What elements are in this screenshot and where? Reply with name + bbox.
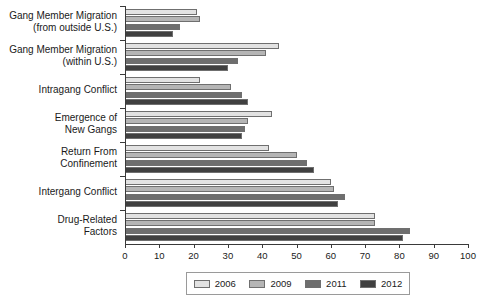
bar [125,167,314,173]
bar [125,118,248,124]
legend-label: 2006 [215,278,236,289]
x-axis-tick-label: 40 [257,250,268,261]
legend-swatch [194,280,210,288]
legend-item[interactable]: 2009 [249,278,291,289]
category-label: Intergang Conflict [39,186,117,198]
x-axis-tick [194,244,195,248]
bar [125,31,173,37]
bar [125,194,345,200]
x-axis-tick [159,244,160,248]
x-axis-tick [228,244,229,248]
x-axis-tick-label: 20 [188,250,199,261]
bar [125,220,375,226]
bar-chart: Gang Member Migration (from outside U.S.… [0,0,485,305]
bar [125,126,245,132]
legend-swatch [305,280,321,288]
bar [125,43,279,49]
bar [125,111,272,117]
category-label: Gang Member Migration (within U.S.) [9,44,117,68]
bar [125,77,200,83]
bar [125,179,331,185]
x-axis-tick-label: 60 [326,250,337,261]
legend-label: 2011 [326,278,346,289]
bar [125,186,334,192]
category-label: Intragang Conflict [39,84,117,96]
x-axis-tick-label: 10 [154,250,165,261]
legend-label: 2009 [270,278,291,289]
category-label: Emergence of New Gangs [55,112,117,136]
x-axis-tick-label: 90 [428,250,439,261]
legend-swatch [360,280,376,288]
x-axis-tick [434,244,435,248]
x-axis-tick-label: 100 [460,250,476,261]
bar [125,58,238,64]
legend-label: 2012 [381,278,402,289]
x-axis-tick [125,244,126,248]
legend-item[interactable]: 2006 [194,278,236,289]
x-axis-tick [262,244,263,248]
category-label: Drug-Related Factors [58,214,117,238]
chart-legend: 2006200920112012 [186,272,410,295]
bar [125,16,200,22]
x-axis-tick [399,244,400,248]
bar [125,133,242,139]
bar [125,152,297,158]
legend-swatch [249,280,265,288]
category-label: Gang Member Migration (from outside U.S.… [9,10,117,34]
bar [125,92,242,98]
x-axis-tick [331,244,332,248]
plot-area [125,6,468,244]
bar [125,145,269,151]
x-axis-tick [297,244,298,248]
bar [125,201,338,207]
y-axis-line [125,6,126,244]
x-axis-tick-label: 70 [360,250,371,261]
bar [125,50,266,56]
bar [125,235,403,241]
x-axis-tick-label: 30 [223,250,234,261]
bar [125,228,410,234]
legend-item[interactable]: 2011 [305,278,346,289]
bar [125,213,375,219]
x-axis-tick-label: 50 [291,250,302,261]
x-axis-tick-label: 80 [394,250,405,261]
bar [125,65,228,71]
x-axis-tick [365,244,366,248]
category-label: Return From Confinement [60,146,117,170]
bar [125,9,197,15]
bar [125,99,248,105]
bar [125,84,231,90]
bar [125,160,307,166]
x-axis-tick [468,244,469,248]
bar [125,24,180,30]
legend-item[interactable]: 2012 [360,278,402,289]
x-axis-tick-label: 0 [122,250,127,261]
